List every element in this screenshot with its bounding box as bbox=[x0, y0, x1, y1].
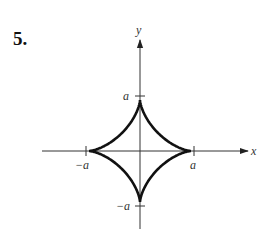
tick-label-y-pos: a bbox=[123, 89, 129, 103]
tick-label-x-neg: −a bbox=[75, 158, 89, 172]
tick-label-x-pos: a bbox=[190, 158, 196, 172]
tick-label-y-neg: −a bbox=[116, 199, 130, 213]
astroid-figure: x y a −a a −a bbox=[0, 0, 279, 229]
y-axis-label: y bbox=[135, 23, 142, 37]
x-axis-label: x bbox=[250, 144, 257, 158]
